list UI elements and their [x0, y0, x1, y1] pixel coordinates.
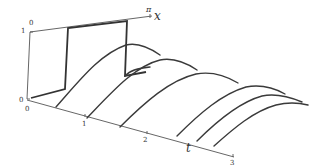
t-label-1: 1 [82, 120, 86, 128]
u-axis [27, 32, 30, 99]
waterfall-plot: 0 1 0 π x 0 1 2 3 t [0, 0, 317, 167]
x-label-0: 0 [29, 19, 33, 27]
t-label-3: 3 [230, 159, 234, 167]
t-axis [27, 100, 234, 157]
t-label-2: 2 [143, 136, 147, 144]
t-label-0: 0 [25, 105, 29, 113]
curve-t6 [214, 103, 308, 146]
curve-t1 [56, 44, 160, 107]
curve-t0-step [31, 21, 146, 98]
x-label-pi: π [145, 5, 152, 14]
t-axis-name: t [186, 141, 191, 155]
u-label-1: 1 [21, 27, 25, 35]
u-label-0: 0 [19, 96, 23, 104]
x-axis-top [30, 16, 152, 32]
x-axis-name: x [154, 9, 161, 23]
